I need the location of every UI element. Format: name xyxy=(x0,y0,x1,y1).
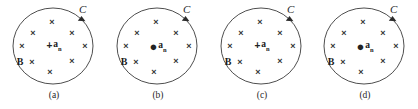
panel-d: C × × × × × × × × ● an B (d) xyxy=(313,0,417,109)
into-page-vector-icon: + xyxy=(254,41,260,51)
x-mark: × xyxy=(173,57,178,66)
loop-diagram-a: C × × × × × × × × + an B xyxy=(2,0,106,92)
area-vector-label-d: an xyxy=(365,40,373,51)
x-mark: × xyxy=(277,29,282,38)
x-mark: × xyxy=(257,18,262,27)
out-of-page-vector-icon: ● xyxy=(149,39,157,52)
x-mark: × xyxy=(237,58,242,67)
panel-c: C × × × × × × × × + an B (c) xyxy=(210,0,314,109)
x-mark: × xyxy=(123,42,128,51)
x-mark: × xyxy=(255,68,260,77)
loop-diagram-b: C × × × × × × × × ● an B xyxy=(106,0,210,92)
loop-label-c-d: C xyxy=(390,4,397,15)
loop-diagram-d: C × × × × × × × × ● an B xyxy=(313,0,417,92)
x-mark: × xyxy=(341,29,346,38)
field-label-b-d: B xyxy=(328,57,335,67)
area-vector-group-a: + an xyxy=(46,40,61,51)
x-mark: × xyxy=(340,58,345,67)
area-vector-label-c: an xyxy=(261,40,269,51)
x-mark: × xyxy=(238,29,243,38)
into-page-vector-icon: + xyxy=(46,41,52,51)
field-label-b-c: B xyxy=(225,57,232,67)
figure-root: C × × × × × × × × + an B (a) C × × × xyxy=(0,0,418,109)
loop-label-c-b: C xyxy=(183,4,190,15)
panel-caption-b: (b) xyxy=(106,90,210,101)
panel-caption-d: (d) xyxy=(313,90,417,101)
x-mark: × xyxy=(277,57,282,66)
x-mark: × xyxy=(30,29,35,38)
x-mark: × xyxy=(186,42,191,51)
panel-a: C × × × × × × × × + an B (a) xyxy=(2,0,106,109)
x-mark: × xyxy=(151,68,156,77)
area-vector-label-a: an xyxy=(53,40,61,51)
loop-label-c-c: C xyxy=(287,4,294,15)
x-mark: × xyxy=(69,57,74,66)
field-label-b-a: B xyxy=(17,57,24,67)
x-mark: × xyxy=(380,29,385,38)
loop-diagram-c: C × × × × × × × × + an B xyxy=(210,0,314,92)
x-mark: × xyxy=(358,68,363,77)
panel-b: C × × × × × × × × ● an B (b) xyxy=(106,0,210,109)
x-mark: × xyxy=(227,42,232,51)
x-mark: × xyxy=(153,18,158,27)
x-mark: × xyxy=(290,42,295,51)
area-vector-group-d: ● an xyxy=(356,40,373,53)
x-mark: × xyxy=(173,29,178,38)
x-mark: × xyxy=(380,57,385,66)
panel-caption-a: (a) xyxy=(2,90,106,101)
x-mark: × xyxy=(49,18,54,27)
field-label-b-b: B xyxy=(121,57,128,67)
area-vector-group-c: + an xyxy=(254,40,269,51)
x-mark: × xyxy=(360,18,365,27)
x-mark: × xyxy=(330,42,335,51)
area-vector-label-b: an xyxy=(158,40,166,51)
x-mark: × xyxy=(29,58,34,67)
x-mark: × xyxy=(133,58,138,67)
x-mark: × xyxy=(134,29,139,38)
x-mark: × xyxy=(69,29,74,38)
area-vector-group-b: ● an xyxy=(149,40,166,53)
loop-label-c-a: C xyxy=(79,4,86,15)
x-mark: × xyxy=(47,68,52,77)
x-mark: × xyxy=(393,42,398,51)
panel-caption-c: (c) xyxy=(210,90,314,101)
x-mark: × xyxy=(82,42,87,51)
out-of-page-vector-icon: ● xyxy=(356,39,364,52)
x-mark: × xyxy=(19,42,24,51)
